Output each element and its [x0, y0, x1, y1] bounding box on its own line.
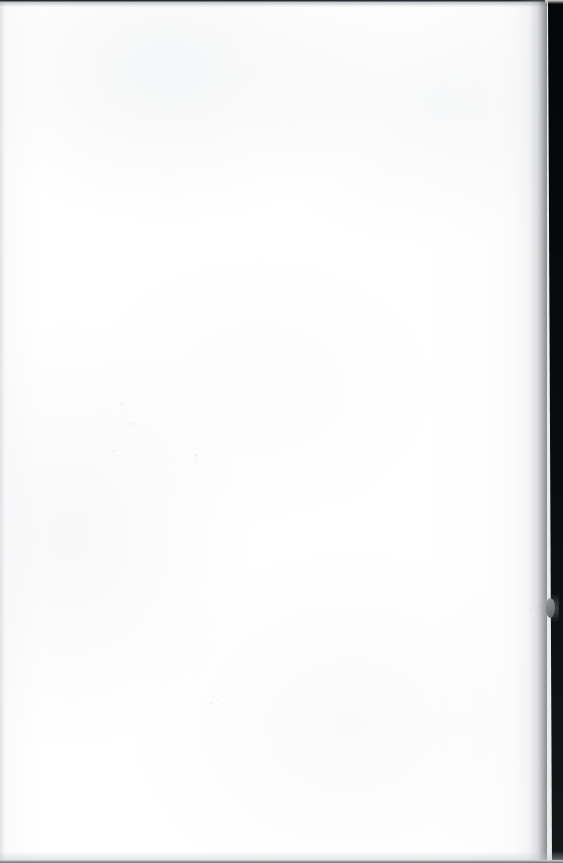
bottom-scan-edge-falloff — [0, 851, 563, 860]
scanned-page — [0, 0, 563, 863]
top-scan-edge-falloff — [0, 2, 563, 7]
paper-surface — [0, 0, 563, 863]
left-margin-band — [0, 0, 5, 863]
